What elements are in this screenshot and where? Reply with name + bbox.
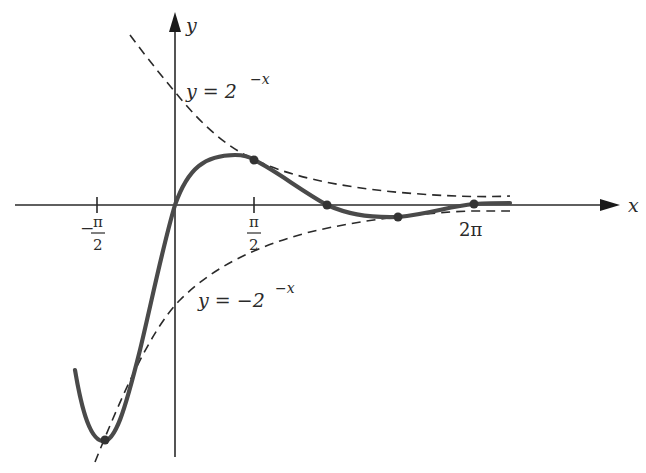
y-axis-arrow-icon	[169, 12, 181, 32]
svg-text:−x: −x	[275, 280, 295, 296]
tick-label-2pi: 2π	[459, 219, 482, 240]
tick-label-neg-pi-half: − π 2	[80, 213, 105, 254]
upper-envelope-label: y = 2 −x	[185, 71, 270, 102]
lower-envelope-label: y = −2 −x	[197, 280, 295, 311]
svg-text:π: π	[249, 213, 259, 231]
main-curve	[75, 155, 510, 441]
x-axis-label: x	[628, 194, 639, 216]
svg-text:y = −2: y = −2	[197, 289, 265, 311]
lower-envelope-curve	[95, 211, 510, 462]
svg-text:2: 2	[93, 236, 103, 254]
upper-envelope-curve	[130, 35, 510, 197]
y-axis-label: y	[185, 14, 197, 36]
marked-point	[250, 156, 259, 165]
marked-point	[101, 436, 110, 445]
svg-text:y = 2: y = 2	[185, 80, 237, 102]
marked-point	[470, 200, 479, 209]
x-axis-arrow-icon	[600, 199, 620, 211]
svg-text:−x: −x	[250, 71, 270, 87]
marked-point	[394, 213, 403, 222]
svg-text:π: π	[93, 213, 103, 231]
plot-canvas: x y − π 2 π 2 2π y = 2 −x y = −2 −x	[0, 0, 646, 473]
tick-label-pi-half: π 2	[247, 213, 261, 254]
marked-point	[323, 201, 332, 210]
